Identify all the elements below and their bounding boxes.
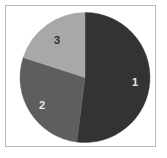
pie-slice-label-1: 1 [132, 77, 138, 88]
pie-slice-label-3: 3 [54, 35, 60, 46]
pie-slice-1 [77, 13, 150, 143]
pie-slice-group [20, 13, 150, 143]
pie-slice-label-2: 2 [39, 100, 45, 111]
figure-root: 1 2 3 [0, 0, 167, 158]
pie-chart [0, 0, 167, 158]
